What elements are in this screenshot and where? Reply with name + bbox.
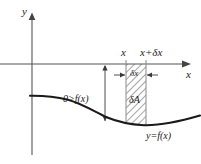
x-axis-label: x [186, 69, 191, 80]
y-axis-label: y [22, 6, 27, 17]
x-right-tick-label: x+δx [140, 47, 162, 58]
x-axis-arrowhead [182, 61, 191, 68]
function-curve [30, 96, 200, 125]
y-axis-arrowhead [29, 13, 36, 21]
x-left-tick-label: x [121, 47, 126, 58]
delta-a-label: δA [129, 95, 140, 105]
delta-x-label: δx [130, 69, 138, 78]
curve-equation-label: y=f(x) [146, 131, 171, 141]
f-negative-label: 0>f(x) [63, 94, 89, 104]
figure-canvas: y x x x+δx δx δA 0>f(x) y=f(x) [0, 0, 201, 164]
